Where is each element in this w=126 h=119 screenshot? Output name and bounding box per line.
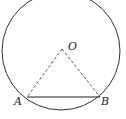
radius-oa (27, 49, 62, 97)
label-o: O (68, 40, 77, 53)
label-b: B (100, 95, 109, 108)
circle (2, 0, 120, 110)
radius-ob (62, 49, 100, 97)
circle-chord-diagram: O A B (0, 0, 126, 119)
label-a: A (13, 95, 22, 108)
